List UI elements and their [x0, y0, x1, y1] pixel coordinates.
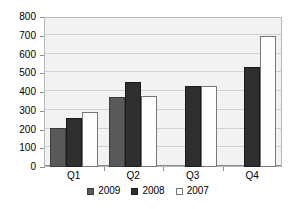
x-tick-mark [163, 167, 164, 171]
bar-q2-2007[interactable] [141, 96, 157, 167]
y-tick-label: 300 [0, 106, 36, 116]
y-tick-label: 700 [0, 31, 36, 41]
x-axis: Q1Q2Q3Q4 [44, 170, 282, 184]
bar-group-q2 [109, 17, 157, 167]
bar-q3-2007[interactable] [201, 86, 217, 167]
chart-legend: 200920082007 [0, 186, 296, 196]
bar-q2-2009[interactable] [109, 97, 125, 167]
y-tick-label: 200 [0, 125, 36, 135]
bar-q3-2008[interactable] [185, 86, 201, 167]
bar-q2-2008[interactable] [125, 82, 141, 167]
x-tick-mark [104, 167, 105, 171]
y-tick-label: 800 [0, 12, 36, 22]
legend-label: 2009 [98, 186, 120, 196]
legend-item-2009[interactable]: 2009 [87, 186, 120, 196]
bar-group-q4 [228, 17, 276, 167]
x-tick-label-q4: Q4 [223, 170, 283, 182]
y-tick-label: 500 [0, 68, 36, 78]
bar-q1-2009[interactable] [50, 128, 66, 167]
bar-q1-2007[interactable] [82, 112, 98, 168]
legend-swatch-icon [131, 188, 138, 195]
x-tick-mark [223, 167, 224, 171]
x-tick-label-q1: Q1 [44, 170, 104, 182]
y-axis: 8007006005004003002001000 [0, 0, 40, 185]
x-tick-label-q3: Q3 [163, 170, 223, 182]
y-tick-label: 400 [0, 87, 36, 97]
bar-q4-2008[interactable] [244, 67, 260, 167]
legend-label: 2007 [187, 186, 209, 196]
bar-group-q1 [50, 17, 98, 167]
bar-q4-2007[interactable] [260, 36, 276, 167]
y-tick-label: 0 [0, 162, 36, 172]
legend-swatch-icon [87, 188, 94, 195]
bars-layer [44, 17, 282, 167]
y-tick-label: 600 [0, 50, 36, 60]
legend-label: 2008 [142, 186, 164, 196]
legend-item-2008[interactable]: 2008 [131, 186, 164, 196]
x-tick-label-q2: Q2 [104, 170, 164, 182]
bar-chart: 8007006005004003002001000 Q1Q2Q3Q4 20092… [0, 0, 296, 209]
y-tick-label: 100 [0, 143, 36, 153]
bar-group-q3 [169, 17, 217, 167]
bar-q1-2008[interactable] [66, 118, 82, 167]
legend-swatch-icon [176, 188, 183, 195]
legend-item-2007[interactable]: 2007 [176, 186, 209, 196]
